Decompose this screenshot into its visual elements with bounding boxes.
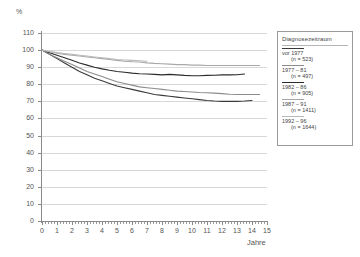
- y-tick-label: 30: [8, 166, 34, 173]
- series-line: [42, 50, 245, 76]
- x-tick-label: 5: [110, 227, 124, 234]
- gridline: [42, 136, 267, 137]
- x-tick-minor: [168, 222, 169, 224]
- x-tick-minor: [129, 222, 130, 224]
- x-tick-minor: [165, 222, 166, 224]
- gridline: [42, 101, 267, 102]
- x-tick-minor: [96, 222, 97, 224]
- x-tick: [147, 222, 148, 225]
- x-tick-minor: [189, 222, 190, 224]
- x-tick-minor: [81, 222, 82, 224]
- x-tick: [207, 222, 208, 225]
- legend-entry: 1977 – 81(n = 497): [278, 63, 352, 80]
- x-tick-minor: [231, 222, 232, 224]
- y-tick-label: 70: [8, 97, 34, 104]
- y-tick-label: 100: [8, 46, 34, 53]
- legend-swatch: [282, 99, 304, 100]
- legend-entry: 1982 – 86(n = 905): [278, 80, 352, 97]
- x-tick-minor: [261, 222, 262, 224]
- legend-swatch: [282, 116, 304, 117]
- x-tick-label: 14: [245, 227, 259, 234]
- x-tick-minor: [234, 222, 235, 224]
- x-tick-minor: [219, 222, 220, 224]
- x-tick-minor: [183, 222, 184, 224]
- x-tick-minor: [243, 222, 244, 224]
- x-tick-label: 9: [170, 227, 184, 234]
- legend-entry: 1987 – 91(n = 1411): [278, 97, 352, 114]
- x-tick-minor: [78, 222, 79, 224]
- x-tick-minor: [171, 222, 172, 224]
- x-tick-minor: [174, 222, 175, 224]
- x-tick-label: 10: [185, 227, 199, 234]
- x-tick-minor: [111, 222, 112, 224]
- y-axis-line: [41, 31, 42, 223]
- x-tick: [87, 222, 88, 225]
- y-tick-label: 80: [8, 80, 34, 87]
- x-tick-minor: [69, 222, 70, 224]
- gridline: [42, 33, 267, 34]
- x-tick-label: 4: [95, 227, 109, 234]
- x-tick-minor: [141, 222, 142, 224]
- x-tick-minor: [180, 222, 181, 224]
- x-axis-line: [41, 221, 268, 222]
- x-axis-label: Jahre: [247, 238, 266, 247]
- x-tick-label: 12: [215, 227, 229, 234]
- x-tick-minor: [126, 222, 127, 224]
- x-tick-minor: [108, 222, 109, 224]
- y-tick-label: 50: [8, 132, 34, 139]
- gridline: [42, 153, 267, 154]
- x-tick-label: 3: [80, 227, 94, 234]
- legend-entries: vor 1977(n = 523)1977 – 81(n = 497)1982 …: [278, 46, 352, 131]
- x-tick-minor: [153, 222, 154, 224]
- x-tick-minor: [105, 222, 106, 224]
- x-tick-minor: [84, 222, 85, 224]
- x-tick-minor: [66, 222, 67, 224]
- x-tick-minor: [159, 222, 160, 224]
- x-tick-minor: [138, 222, 139, 224]
- x-tick-minor: [255, 222, 256, 224]
- x-tick-label: 2: [65, 227, 79, 234]
- x-tick-minor: [114, 222, 115, 224]
- x-tick-minor: [90, 222, 91, 224]
- x-tick-minor: [240, 222, 241, 224]
- x-tick: [117, 222, 118, 225]
- x-tick-minor: [225, 222, 226, 224]
- x-tick-minor: [228, 222, 229, 224]
- x-tick: [267, 222, 268, 225]
- x-tick: [132, 222, 133, 225]
- x-tick: [237, 222, 238, 225]
- x-tick-minor: [135, 222, 136, 224]
- legend-count-label: (n = 523): [282, 56, 348, 62]
- x-tick: [177, 222, 178, 225]
- x-tick-minor: [264, 222, 265, 224]
- x-tick-minor: [123, 222, 124, 224]
- x-tick-minor: [150, 222, 151, 224]
- x-tick: [42, 222, 43, 225]
- legend-count-label: (n = 1644): [282, 124, 348, 130]
- y-axis-label: %: [16, 8, 22, 15]
- x-tick-minor: [186, 222, 187, 224]
- gridline: [42, 204, 267, 205]
- legend-count-label: (n = 1411): [282, 107, 348, 113]
- x-tick-minor: [198, 222, 199, 224]
- legend-title: Diagnosezeitraum: [278, 32, 352, 42]
- x-tick-minor: [156, 222, 157, 224]
- x-tick-label: 7: [140, 227, 154, 234]
- gridline: [42, 187, 267, 188]
- gridline: [42, 118, 267, 119]
- x-tick-label: 13: [230, 227, 244, 234]
- x-tick-label: 8: [155, 227, 169, 234]
- gridline: [42, 84, 267, 85]
- x-tick: [222, 222, 223, 225]
- x-tick-minor: [63, 222, 64, 224]
- x-tick-minor: [51, 222, 52, 224]
- legend: Diagnosezeitraum vor 1977(n = 523)1977 –…: [277, 31, 353, 146]
- x-tick: [162, 222, 163, 225]
- legend-swatch: [282, 65, 304, 66]
- y-tick-label: 110: [8, 29, 34, 36]
- x-tick: [72, 222, 73, 225]
- x-tick-label: 15: [260, 227, 274, 234]
- x-tick: [102, 222, 103, 225]
- x-tick-label: 6: [125, 227, 139, 234]
- series-line: [42, 50, 252, 101]
